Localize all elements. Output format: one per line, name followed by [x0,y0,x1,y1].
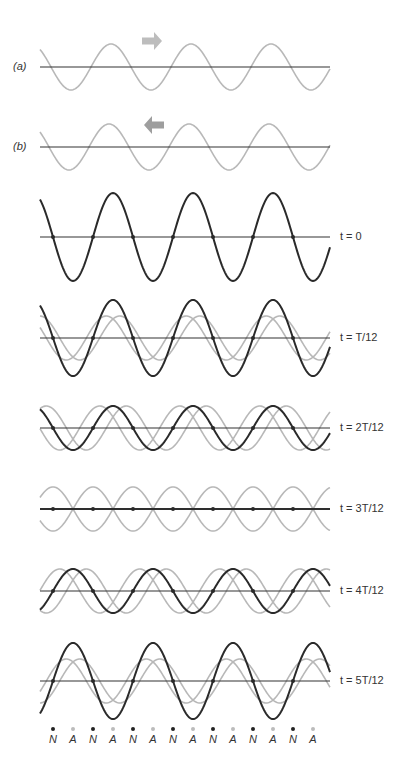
antinode-marker-icon [231,727,235,731]
antinode-label: A [306,733,320,745]
node-dot [291,426,295,430]
node-dot [171,336,175,340]
node-dot [251,426,255,430]
node-dot [131,507,135,511]
antinode-label: A [226,733,240,745]
time-label-t4: t = 4T/12 [340,584,384,596]
node-dot [91,507,95,511]
node-dot [171,507,175,511]
node-label: N [286,733,300,745]
time-label-t1: t = T/12 [340,331,377,343]
antinode-marker-icon [151,727,155,731]
antinode-marker-icon [111,727,115,731]
node-dot [291,589,295,593]
antinode-label: A [146,733,160,745]
node-dot [171,235,175,239]
node-dot [51,336,55,340]
panel-b-label: (b) [13,140,26,152]
node-dot [51,679,55,683]
node-marker-icon [131,727,135,731]
arrow-right-icon [142,32,162,50]
node-marker-icon [251,727,255,731]
node-dot [171,679,175,683]
node-dot [131,235,135,239]
node-marker-icon [211,727,215,731]
node-label: N [46,733,60,745]
node-label: N [206,733,220,745]
time-label-t3: t = 3T/12 [340,502,384,514]
node-marker-icon [171,727,175,731]
node-marker-icon [91,727,95,731]
panel-a-label: (a) [13,60,26,72]
antinode-marker-icon [191,727,195,731]
node-label: N [86,733,100,745]
node-dot [131,336,135,340]
antinode-marker-icon [71,727,75,731]
node-dot [51,507,55,511]
node-dot [251,589,255,593]
node-dot [51,235,55,239]
time-label-t2: t = 2T/12 [340,421,384,433]
node-label: N [126,733,140,745]
time-label-t0: t = 0 [340,230,362,242]
node-dot [91,426,95,430]
node-label: N [246,733,260,745]
node-dot [131,679,135,683]
node-dot [211,336,215,340]
time-label-t5: t = 5T/12 [340,674,384,686]
node-dot [211,507,215,511]
node-marker-icon [291,727,295,731]
antinode-label: A [186,733,200,745]
node-dot [211,589,215,593]
node-dot [291,679,295,683]
node-dot [251,336,255,340]
node-dot [291,507,295,511]
node-dot [51,426,55,430]
node-dot [211,235,215,239]
arrow-left-icon [144,116,164,134]
node-label: N [166,733,180,745]
node-dot [251,235,255,239]
node-dot [91,679,95,683]
node-dot [91,589,95,593]
node-dot [171,426,175,430]
node-dot [251,679,255,683]
node-dot [91,235,95,239]
node-dot [291,336,295,340]
node-dot [251,507,255,511]
node-dot [291,235,295,239]
node-dot [91,336,95,340]
node-dot [51,589,55,593]
node-marker-icon [51,727,55,731]
antinode-label: A [266,733,280,745]
node-dot [131,589,135,593]
antinode-marker-icon [271,727,275,731]
node-dot [211,426,215,430]
antinode-label: A [106,733,120,745]
node-dot [211,679,215,683]
antinode-label: A [66,733,80,745]
node-dot [131,426,135,430]
antinode-marker-icon [311,727,315,731]
standing-wave-figure [0,0,403,771]
node-dot [171,589,175,593]
